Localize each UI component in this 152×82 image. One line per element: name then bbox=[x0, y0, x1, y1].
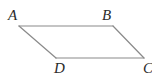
vertex-label-C: C bbox=[143, 61, 152, 76]
vertex-label-B: B bbox=[102, 8, 111, 23]
vertex-label-A: A bbox=[8, 8, 17, 23]
geometry-figure-parallelogram: A B C D bbox=[0, 0, 152, 82]
edge-BC bbox=[113, 26, 144, 58]
vertex-label-D: D bbox=[54, 61, 65, 76]
parallelogram-shape bbox=[0, 0, 152, 82]
edge-DA bbox=[19, 26, 56, 58]
